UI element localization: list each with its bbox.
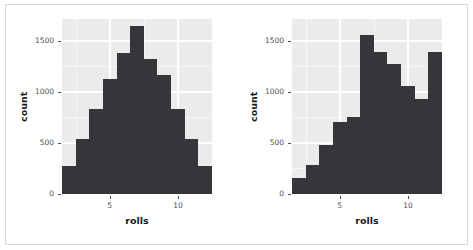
- figure-root: count rolls 050010001500510 count rolls …: [0, 0, 473, 250]
- histogram-bar: [360, 35, 374, 194]
- y-axis-tick-mark: [58, 41, 61, 42]
- chart-panel-fair-dice: count rolls 050010001500510: [0, 0, 236, 250]
- histogram-bar: [103, 79, 117, 194]
- y-axis-tick-label: 500: [260, 139, 284, 147]
- plot-area-left: [62, 19, 212, 194]
- histogram-bar: [374, 52, 388, 194]
- histogram-bar: [428, 52, 442, 194]
- y-axis-tick-mark: [288, 92, 291, 93]
- histogram-bar: [347, 117, 361, 194]
- y-axis-tick-label: 1500: [260, 37, 284, 45]
- x-axis-tick-label: 5: [328, 202, 352, 210]
- y-axis-title-left: count: [18, 19, 28, 194]
- y-axis-tick-mark: [58, 143, 61, 144]
- x-axis-tick-mark: [178, 196, 179, 199]
- histogram-bar: [387, 64, 401, 194]
- x-axis-tick-label: 5: [98, 202, 122, 210]
- y-axis-tick-mark: [288, 41, 291, 42]
- histogram-bar: [62, 166, 76, 194]
- histogram-bar: [89, 109, 103, 194]
- x-axis-tick-mark: [408, 196, 409, 199]
- histogram-bar: [319, 145, 333, 194]
- y-axis-tick-label: 0: [260, 190, 284, 198]
- x-axis-tick-mark: [340, 196, 341, 199]
- histogram-bar: [292, 178, 306, 194]
- y-axis-title-right: count: [248, 19, 258, 194]
- chart-panel-loaded-dice: count rolls 050010001500510: [236, 0, 473, 250]
- y-axis-tick-label: 1000: [260, 88, 284, 96]
- histogram-bar: [185, 139, 199, 194]
- x-axis-title-left: rolls: [62, 216, 212, 226]
- x-axis-tick-label: 10: [396, 202, 420, 210]
- y-axis-tick-mark: [58, 92, 61, 93]
- histogram-bar: [171, 109, 185, 194]
- histogram-bar: [415, 99, 429, 194]
- histogram-bar: [333, 122, 347, 194]
- y-axis-tick-mark: [288, 194, 291, 195]
- y-axis-tick-mark: [58, 194, 61, 195]
- histogram-bar: [144, 59, 158, 194]
- histogram-bar: [76, 139, 90, 194]
- histogram-bar: [157, 75, 171, 194]
- y-axis-tick-label: 1000: [30, 88, 54, 96]
- histogram-bar: [401, 86, 415, 194]
- plot-area-right: [292, 19, 442, 194]
- x-axis-title-right: rolls: [292, 216, 442, 226]
- x-axis-tick-label: 10: [166, 202, 190, 210]
- x-axis-tick-mark: [110, 196, 111, 199]
- y-axis-tick-mark: [288, 143, 291, 144]
- histogram-bar: [306, 165, 320, 195]
- y-axis-tick-label: 500: [30, 139, 54, 147]
- y-axis-tick-label: 1500: [30, 37, 54, 45]
- y-axis-tick-label: 0: [30, 190, 54, 198]
- histogram-bar: [130, 26, 144, 194]
- histogram-bar: [198, 166, 212, 194]
- histogram-bar: [117, 53, 131, 194]
